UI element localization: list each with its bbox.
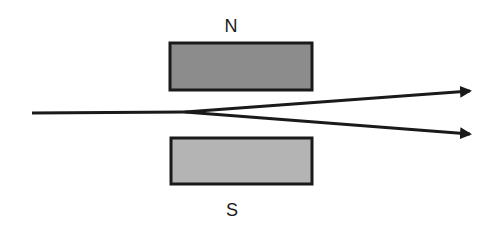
south-label: S xyxy=(226,200,238,221)
incoming-beam xyxy=(32,112,185,113)
lower-deflected-arrow xyxy=(185,112,470,134)
upper-deflected-arrow xyxy=(185,91,470,112)
diagram-canvas xyxy=(0,0,504,233)
north-magnet xyxy=(170,43,312,90)
north-label: N xyxy=(225,16,238,37)
south-magnet xyxy=(171,138,312,184)
